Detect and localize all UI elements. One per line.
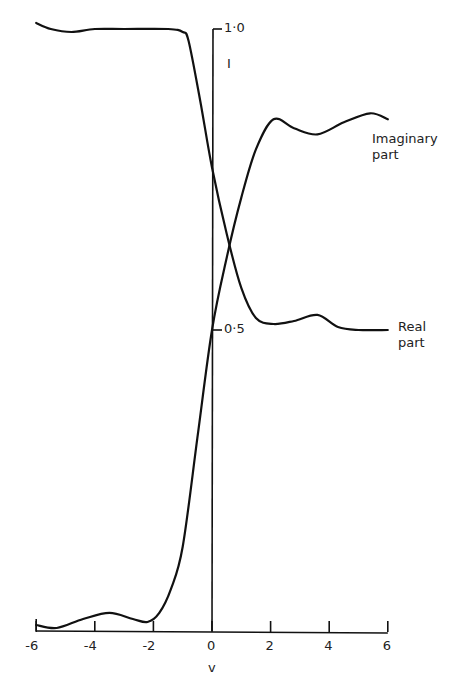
x-tick-label: 0 (207, 638, 215, 653)
imaginary-part-label: Imaginary part (372, 131, 438, 163)
x-tick-label: -4 (84, 638, 97, 653)
x-tick-label: 4 (324, 638, 332, 653)
y-tick-label: 0·5 (224, 321, 245, 336)
real-part-label-line2: part (398, 335, 426, 351)
x-tick-label: 2 (266, 638, 274, 653)
real-part-label-line1: Real (398, 319, 426, 335)
x-tick-label: 6 (383, 638, 391, 653)
y-axis-label: I (227, 56, 231, 71)
x-axis-label: v (208, 660, 216, 675)
y-tick-label: 1·0 (224, 20, 245, 35)
x-tick-label: -2 (142, 638, 155, 653)
x-tick-label: -6 (25, 638, 38, 653)
imaginary-part-label-line1: Imaginary (372, 131, 438, 147)
plot-area (0, 0, 460, 687)
imaginary-part-label-line2: part (372, 147, 438, 163)
real-part-label: Real part (398, 319, 426, 351)
